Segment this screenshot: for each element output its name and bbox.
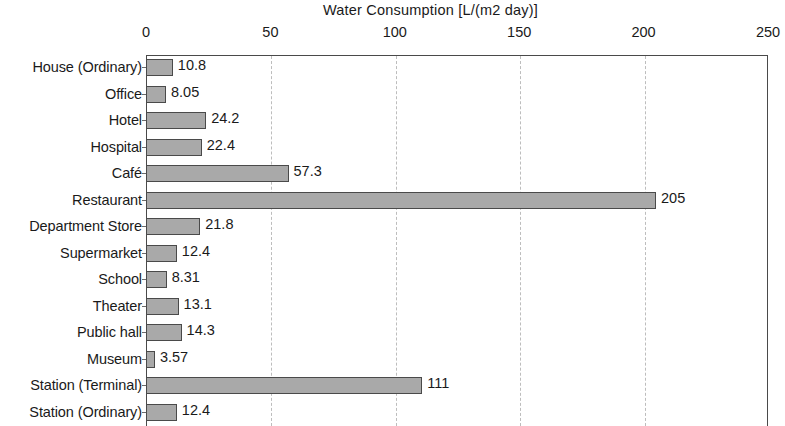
bar [146, 377, 422, 394]
y-axis-tick-mark [142, 200, 146, 201]
water-consumption-bar-chart: Water Consumption [L/(m2 day)] 050100150… [0, 0, 785, 426]
y-axis-tick-mark [142, 359, 146, 360]
bar-row: 21.8 [146, 214, 768, 241]
bar-value-label: 205 [661, 190, 685, 206]
y-axis-category-label: Station (Terminal) [0, 377, 142, 393]
bar [146, 404, 177, 421]
x-axis-tick-labels: 050100150200250 [0, 24, 785, 42]
bar-row: 8.31 [146, 267, 768, 294]
y-axis-tick-mark [142, 67, 146, 68]
bar-row: 12.4 [146, 241, 768, 268]
y-axis-tick-mark [142, 279, 146, 280]
bar-value-label: 3.57 [160, 349, 188, 365]
bar-value-label: 13.1 [184, 296, 212, 312]
bar-value-label: 10.8 [178, 57, 206, 73]
bar-row: 10.8 [146, 55, 768, 82]
bar [146, 298, 179, 315]
y-axis-category-label: Hotel [0, 112, 142, 128]
y-axis-tick-mark [142, 120, 146, 121]
y-axis-category-label: Supermarket [0, 245, 142, 261]
y-axis-tick-mark [142, 253, 146, 254]
y-axis-category-label: Department Store [0, 218, 142, 234]
bar-row: 111 [146, 373, 768, 400]
bar-row: 205 [146, 188, 768, 215]
y-axis-category-label: Public hall [0, 324, 142, 340]
bar-value-label: 12.4 [182, 243, 210, 259]
bar [146, 351, 155, 368]
bar-row: 24.2 [146, 108, 768, 135]
bar-row: 12.4 [146, 400, 768, 426]
bar [146, 139, 202, 156]
bar [146, 192, 656, 209]
bar-value-label: 8.05 [171, 84, 199, 100]
bar [146, 324, 182, 341]
bar-value-label: 8.31 [172, 269, 200, 285]
bar-value-label: 57.3 [294, 163, 322, 179]
x-tick-label: 100 [383, 24, 407, 40]
y-axis-tick-mark [142, 94, 146, 95]
y-axis-tick-mark [142, 412, 146, 413]
y-axis-tick-mark [142, 385, 146, 386]
bar [146, 86, 166, 103]
x-tick-label: 50 [262, 24, 278, 40]
y-axis-tick-mark [142, 173, 146, 174]
y-axis-category-label: Restaurant [0, 192, 142, 208]
bar-row: 3.57 [146, 347, 768, 374]
chart-title: Water Consumption [L/(m2 day)] [0, 2, 785, 18]
y-axis-category-label: House (Ordinary) [0, 59, 142, 75]
y-axis-tick-mark [142, 306, 146, 307]
x-tick-label: 150 [507, 24, 531, 40]
bar [146, 218, 200, 235]
y-axis-category-label: Station (Ordinary) [0, 404, 142, 420]
y-axis-category-label: Hospital [0, 139, 142, 155]
y-axis-category-label: Café [0, 165, 142, 181]
y-axis-category-label: Museum [0, 351, 142, 367]
bar [146, 112, 206, 129]
y-axis-tick-mark [142, 147, 146, 148]
y-axis-category-label: Office [0, 86, 142, 102]
y-axis-category-labels: House (Ordinary)OfficeHotelHospitalCaféR… [0, 55, 142, 426]
bar-value-label: 14.3 [187, 322, 215, 338]
x-tick-label: 200 [631, 24, 655, 40]
y-axis-category-label: Theater [0, 298, 142, 314]
y-axis-category-label: School [0, 271, 142, 287]
bar-row: 57.3 [146, 161, 768, 188]
bars-layer: 10.88.0524.222.457.320521.812.48.3113.11… [146, 55, 768, 426]
bar-row: 8.05 [146, 82, 768, 109]
y-axis-tick-mark [142, 226, 146, 227]
x-tick-label: 250 [756, 24, 780, 40]
bar-value-label: 12.4 [182, 402, 210, 418]
bar-value-label: 24.2 [211, 110, 239, 126]
x-tick-label: 0 [142, 24, 150, 40]
y-axis-tick-mark [142, 332, 146, 333]
bar [146, 59, 173, 76]
bar-value-label: 111 [427, 375, 449, 391]
bar [146, 165, 289, 182]
bar [146, 245, 177, 262]
bar-row: 22.4 [146, 135, 768, 162]
bar-row: 13.1 [146, 294, 768, 321]
bar [146, 271, 167, 288]
chart-title-text: Water Consumption [L/(m2 day)] [323, 2, 538, 18]
bar-value-label: 21.8 [205, 216, 233, 232]
bar-row: 14.3 [146, 320, 768, 347]
bar-value-label: 22.4 [207, 137, 235, 153]
